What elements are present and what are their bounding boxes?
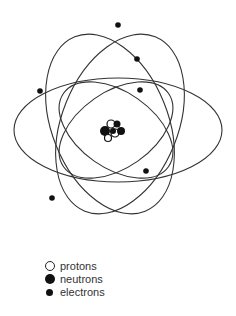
legend-label: neutrons [60,273,103,286]
legend-item-neutrons: neutrons [44,273,184,286]
legend: protons neutrons electrons [44,260,184,299]
electron-dot [143,168,149,174]
neutron-icon [44,273,58,286]
electrons [37,22,149,201]
electron-dot [115,22,121,28]
legend-label: electrons [60,286,105,299]
legend-item-electrons: electrons [44,286,184,299]
proton-icon [44,260,58,273]
neutron-particle [117,127,125,135]
nucleus [100,120,125,142]
proton-particle [105,135,112,142]
electron-dot [37,88,43,94]
electron-dot [134,56,140,62]
neutron-particle [110,128,116,134]
legend-label: protons [60,260,97,273]
electron-dot [49,195,55,201]
legend-item-protons: protons [44,260,184,273]
atom-diagram [0,0,236,250]
electron-icon [44,286,58,299]
electron-dot [137,87,143,93]
neutron-particle [114,121,121,128]
